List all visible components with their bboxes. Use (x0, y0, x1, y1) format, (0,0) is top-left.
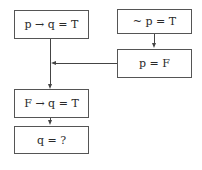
conclusion-box: q = ? (14, 126, 89, 154)
premise-conditional-box: p → q = T (14, 10, 89, 39)
edge-derived-to-main (55, 63, 117, 64)
arrowhead-left-icon (51, 61, 56, 65)
arrowhead-down-icon (48, 84, 52, 89)
derived-p-label: p = F (139, 57, 170, 70)
arrowhead-down-icon (48, 120, 52, 125)
premise-conditional-label: p → q = T (25, 18, 79, 31)
substituted-label: F → q = T (24, 97, 78, 110)
conclusion-label: q = ? (37, 134, 66, 147)
substituted-box: F → q = T (14, 89, 89, 118)
derived-p-box: p = F (117, 49, 192, 78)
premise-negation-label: ~ p = T (133, 15, 176, 28)
premise-negation-box: ~ p = T (117, 9, 192, 34)
arrowhead-down-icon (152, 43, 156, 48)
